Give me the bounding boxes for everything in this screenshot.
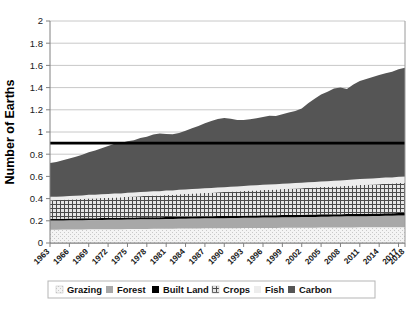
y-tick-label: 0: [38, 237, 43, 248]
y-tick-label: 0.6: [30, 171, 43, 182]
legend-swatch-fish: [254, 286, 261, 293]
y-tick-label: 2: [38, 15, 43, 26]
legend-swatch-forest: [106, 286, 113, 293]
y-tick-label: 0.2: [30, 215, 43, 226]
area-series-grazing: [50, 227, 405, 243]
y-tick-label: 0.4: [30, 193, 43, 204]
legend-label-crops: Crops: [223, 284, 250, 295]
legend-label-grazing: Grazing: [67, 284, 102, 295]
legend-label-carbon: Carbon: [299, 284, 332, 295]
chart-legend: GrazingForestBuilt LandCropsFishCarbon: [48, 281, 375, 298]
legend-label-built-land: Built Land: [163, 284, 209, 295]
legend-swatch-carbon: [288, 286, 295, 293]
legend-swatch-grazing: [56, 286, 63, 293]
y-tick-label: 1.8: [30, 38, 43, 49]
y-tick-label: 1.2: [30, 104, 43, 115]
legend-swatch-built-land: [152, 286, 159, 293]
y-tick-label: 1.6: [30, 60, 43, 71]
ecological-footprint-area-chart: 00.20.40.60.811.21.41.61.82 196319661969…: [0, 0, 417, 311]
y-tick-label: 0.8: [30, 149, 43, 160]
legend-label-forest: Forest: [117, 284, 146, 295]
y-axis-title: Number of Earths: [3, 80, 17, 185]
y-tick-label: 1: [38, 126, 43, 137]
legend-swatch-crops: [212, 286, 219, 293]
legend-label-fish: Fish: [265, 284, 285, 295]
chart-container: 00.20.40.60.811.21.41.61.82 196319661969…: [0, 0, 417, 311]
y-tick-label: 1.4: [30, 82, 43, 93]
